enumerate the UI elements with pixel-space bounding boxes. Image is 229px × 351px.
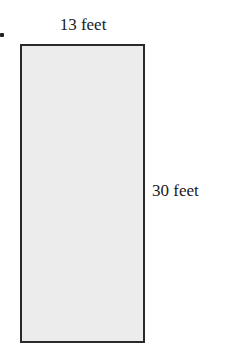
rectangle-shape (20, 44, 145, 343)
height-label: 30 feet (152, 180, 199, 202)
bullet-marker (0, 33, 4, 37)
width-label: 13 feet (20, 14, 146, 36)
